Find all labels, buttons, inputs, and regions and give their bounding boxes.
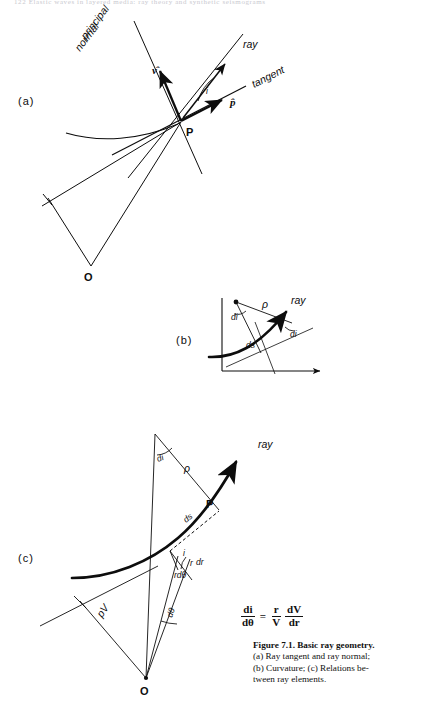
point-o-label-c: O — [140, 685, 149, 697]
figure-caption: Figure 7.1. Basic ray geometry. (a) Ray … — [253, 640, 415, 686]
ray-curvature-equation: di dθ = r V dV dr — [240, 604, 303, 628]
equation-lhs-denominator: dθ — [240, 617, 256, 629]
point-p-label-a: P — [186, 126, 193, 138]
di-center-label-b: di — [231, 312, 239, 322]
equation-term1-denominator: V — [270, 617, 282, 629]
pv-label-c: pV — [93, 601, 111, 620]
equation-term2-numerator: dV — [285, 604, 303, 617]
ray-label-c: ray — [258, 438, 273, 450]
dr-label-c: dr — [196, 557, 205, 567]
equation-term2-fraction: dV dr — [285, 604, 303, 628]
di-ray-label-b: di — [290, 329, 298, 339]
caption-line-c: tween ray elements. — [253, 674, 326, 684]
angle-dtheta-arc-c — [161, 621, 177, 624]
panel-c-label: (c) — [18, 552, 34, 564]
ray-curve-c — [72, 462, 236, 578]
rho-label-c: ρ — [183, 462, 190, 474]
caption-title: Basic ray geometry. — [297, 640, 374, 650]
tangent-line-b — [226, 328, 313, 367]
radius-line-left-a — [42, 122, 181, 206]
panel-b-label: (b) — [176, 334, 192, 346]
equation-relation: = — [259, 610, 267, 622]
ds-segment-c — [170, 511, 219, 551]
normal-unit-vector-nu — [160, 71, 181, 121]
p-hat-label-a: p̂ — [229, 96, 236, 108]
rho-label-b: ρ — [261, 298, 268, 310]
ray-curve-b — [209, 312, 286, 357]
panel-b-group: (b) ρ ray di di ds — [176, 294, 320, 374]
dtheta-label-c: dθ — [164, 606, 177, 618]
panel-c-group: (c) — [18, 434, 273, 697]
rdtheta-label-c: rdθ — [174, 570, 187, 580]
r-label-c: r — [190, 558, 194, 568]
angle-i-label-a: i — [206, 86, 209, 96]
pv-tick-c — [74, 596, 86, 608]
caption-number: Figure 7.1. — [253, 640, 295, 650]
ray-label-b: ray — [291, 294, 306, 306]
equation-term2-denominator: dr — [287, 617, 302, 629]
ray-label-a: ray — [243, 38, 258, 50]
equation-lhs-numerator: di — [241, 604, 254, 617]
equation-lhs-fraction: di dθ — [240, 604, 256, 628]
normal-line-b — [255, 322, 275, 374]
tangent-label-a: tangent — [249, 63, 287, 90]
ray-line-a — [128, 34, 243, 178]
connector-line-a — [48, 198, 91, 266]
equation-term1-fraction: r V — [270, 604, 282, 628]
ray-geometry-figure: (a) principal — [0, 0, 422, 706]
caption-line-b: (b) Curvature; (c) Relations be- — [253, 663, 369, 673]
panel-a-label: (a) — [18, 95, 34, 107]
ds-label-b: ds — [246, 340, 256, 350]
pv-perpendicular-c — [80, 601, 146, 678]
nu-hat-label-a: ν̂ — [152, 64, 160, 76]
point-p-label-c: P — [206, 498, 213, 510]
point-o-label-a: O — [84, 271, 93, 283]
tangent-line-a — [112, 86, 246, 155]
panel-a-group: (a) principal — [18, 2, 287, 283]
tick-mark-a — [43, 194, 52, 205]
figure-page: 122 Elastic waves in layered media: ray … — [0, 0, 422, 706]
equation-term1-numerator: r — [272, 604, 281, 617]
caption-line-a: (a) Ray tangent and ray normal; — [253, 651, 370, 661]
angle-i-label-c: i — [183, 548, 186, 558]
point-o-dot-c — [144, 676, 148, 680]
radius-line-o-a — [91, 122, 181, 266]
